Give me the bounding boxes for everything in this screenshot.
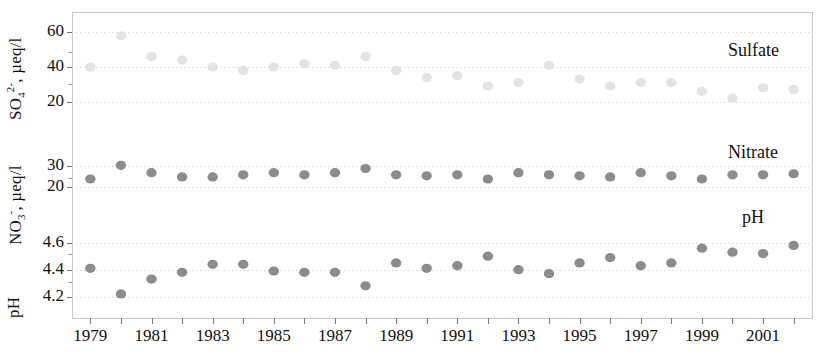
ytick-label-ph-2: 4.6 <box>43 232 64 252</box>
datapoint-ph <box>697 244 707 253</box>
datapoint-sulfate <box>788 85 798 94</box>
datapoint-sulfate <box>636 78 646 87</box>
datapoint-sulfate <box>85 62 95 71</box>
datapoint-nitrate <box>116 161 126 170</box>
datapoint-ph <box>85 264 95 273</box>
ytick-label-sulfate-1: 40 <box>47 56 64 76</box>
datapoint-ph <box>422 264 432 273</box>
panel-nitrate <box>67 161 812 188</box>
datapoint-nitrate <box>788 169 798 178</box>
datapoint-ph <box>391 258 401 267</box>
datapoint-sulfate <box>697 87 707 96</box>
datapoint-ph <box>207 260 217 269</box>
xtick-label-1981: 1981 <box>125 326 179 346</box>
series-label-sulfate: Sulfate <box>728 40 779 61</box>
datapoint-nitrate <box>666 171 676 180</box>
datapoint-sulfate <box>238 66 248 75</box>
panel-ph <box>67 241 812 299</box>
datapoint-ph <box>299 268 309 277</box>
xtick-label-1989: 1989 <box>369 326 423 346</box>
ytick-label-nitrate-0: 20 <box>47 176 64 196</box>
datapoint-ph <box>513 265 523 274</box>
datapoint-sulfate <box>452 71 462 80</box>
datapoint-ph <box>544 269 554 278</box>
datapoint-nitrate <box>422 171 432 180</box>
datapoint-nitrate <box>360 164 370 173</box>
datapoint-nitrate <box>636 168 646 177</box>
datapoint-ph <box>758 249 768 258</box>
datapoint-nitrate <box>452 170 462 179</box>
xtick-label-1995: 1995 <box>553 326 607 346</box>
datapoint-nitrate <box>299 170 309 179</box>
datapoint-sulfate <box>544 61 554 70</box>
xtick-label-2001: 2001 <box>736 326 790 346</box>
datapoint-nitrate <box>758 170 768 179</box>
datapoint-nitrate <box>605 172 615 181</box>
xtick-label-1983: 1983 <box>186 326 240 346</box>
xtick-label-1987: 1987 <box>308 326 362 346</box>
datapoint-ph <box>360 281 370 290</box>
datapoint-nitrate <box>544 170 554 179</box>
datapoint-sulfate <box>360 52 370 61</box>
xtick-label-1979: 1979 <box>63 326 117 346</box>
xtick-label-1997: 1997 <box>614 326 668 346</box>
datapoint-ph <box>330 268 340 277</box>
datapoint-sulfate <box>146 52 156 61</box>
datapoint-sulfate <box>269 62 279 71</box>
datapoint-nitrate <box>391 170 401 179</box>
datapoint-sulfate <box>207 62 217 71</box>
axis-title-sulfate: SO42-, µeq/l <box>4 38 27 120</box>
datapoint-nitrate <box>85 174 95 183</box>
panel-sulfate <box>67 31 812 103</box>
ytick-label-sulfate-0: 20 <box>47 91 64 111</box>
datapoint-ph <box>452 261 462 270</box>
datapoint-sulfate <box>605 81 615 90</box>
datapoint-nitrate <box>269 168 279 177</box>
datapoint-sulfate <box>177 55 187 64</box>
datapoint-nitrate <box>177 172 187 181</box>
datapoint-nitrate <box>238 170 248 179</box>
series-label-ph: pH <box>742 207 764 228</box>
datapoint-sulfate <box>758 83 768 92</box>
datapoint-sulfate <box>513 78 523 87</box>
datapoint-ph <box>727 248 737 257</box>
xtick-label-1985: 1985 <box>247 326 301 346</box>
axis-title-ph: pH <box>4 297 24 318</box>
datapoint-ph <box>605 253 615 262</box>
xtick-label-1993: 1993 <box>491 326 545 346</box>
datapoint-sulfate <box>422 73 432 82</box>
datapoint-ph <box>116 289 126 298</box>
datapoint-sulfate <box>391 66 401 75</box>
chart-figure: 20406020304.24.44.6197919811983198519871… <box>0 0 823 358</box>
datapoint-nitrate <box>574 171 584 180</box>
datapoint-nitrate <box>483 174 493 183</box>
datapoint-ph <box>238 260 248 269</box>
xtick-label-1991: 1991 <box>430 326 484 346</box>
datapoint-nitrate <box>513 168 523 177</box>
datapoint-sulfate <box>330 61 340 70</box>
datapoint-nitrate <box>727 170 737 179</box>
datapoint-ph <box>788 241 798 250</box>
ytick-label-nitrate-1: 30 <box>47 155 64 175</box>
datapoint-ph <box>177 268 187 277</box>
datapoint-nitrate <box>207 172 217 181</box>
ytick-label-ph-1: 4.4 <box>43 259 64 279</box>
datapoint-sulfate <box>299 59 309 68</box>
ytick-label-sulfate-2: 60 <box>47 21 64 41</box>
datapoint-ph <box>146 274 156 283</box>
datapoint-ph <box>574 258 584 267</box>
datapoint-sulfate <box>574 75 584 84</box>
datapoint-sulfate <box>483 81 493 90</box>
axis-title-nitrate: NO3-, µeq/l <box>4 165 27 245</box>
datapoint-nitrate <box>330 168 340 177</box>
chart-canvas <box>0 0 823 358</box>
datapoint-ph <box>483 252 493 261</box>
ytick-label-ph-0: 4.2 <box>43 286 64 306</box>
datapoint-nitrate <box>697 174 707 183</box>
datapoint-ph <box>269 266 279 275</box>
datapoint-sulfate <box>666 78 676 87</box>
datapoint-ph <box>636 261 646 270</box>
datapoint-ph <box>666 258 676 267</box>
datapoint-sulfate <box>727 94 737 103</box>
series-label-nitrate: Nitrate <box>728 142 778 163</box>
